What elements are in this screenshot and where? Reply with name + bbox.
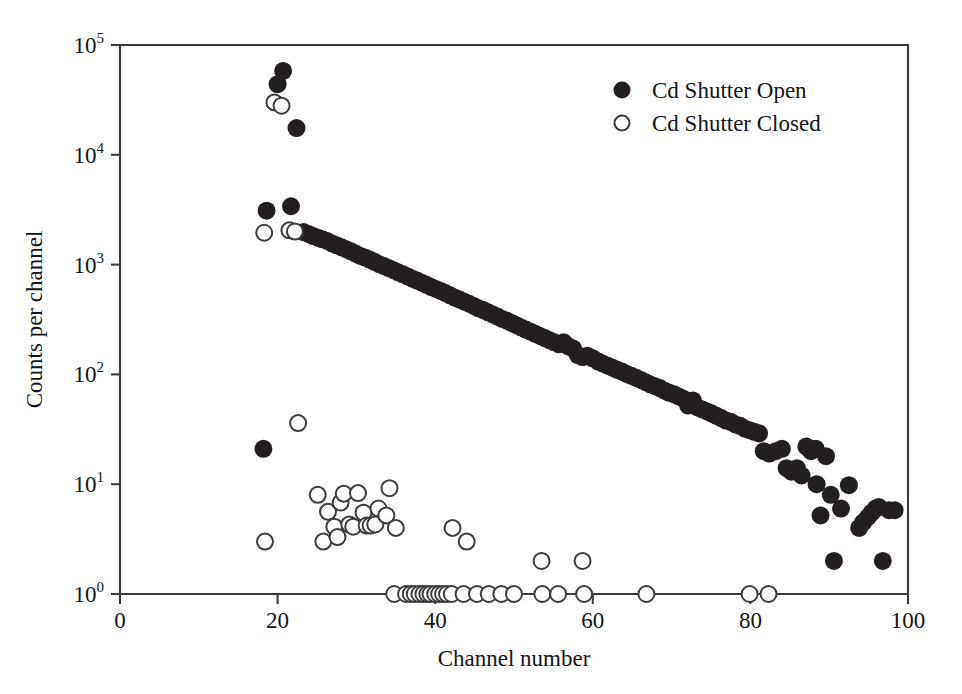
svg-text:104: 104 [74,140,105,168]
data-point [534,586,550,602]
legend-label: Cd Shutter Open [652,78,807,103]
svg-text:103: 103 [74,250,105,278]
x-tick-label-3: 60 [581,608,604,633]
data-point [812,506,830,524]
data-point [638,586,654,602]
data-point [258,202,276,220]
svg-text:100: 100 [74,579,105,607]
y-tick-label-0: 100 [74,579,105,607]
series-shutter-closed [256,94,776,602]
legend-entry-shutter-open: Cd Shutter Open [614,78,808,103]
figure-container: 100101102103104105020406080100Channel nu… [0,0,962,694]
data-point [761,586,777,602]
data-point [750,424,768,442]
data-point [773,440,791,458]
data-point [445,520,461,536]
data-point [288,119,306,137]
data-point [550,586,566,602]
svg-text:101: 101 [74,469,105,497]
x-tick-label-5: 100 [891,608,926,633]
open-circle-icon [615,116,630,131]
data-point [257,534,273,550]
data-point [817,447,835,465]
legend-entry-shutter-closed: Cd Shutter Closed [615,111,822,136]
data-point [459,534,475,550]
x-tick-label-1: 20 [266,608,289,633]
y-tick-label-2: 102 [74,359,105,387]
data-point [886,501,904,519]
data-point [329,529,345,545]
data-point [274,98,290,114]
data-point [256,225,272,241]
x-tick-label-4: 80 [739,608,762,633]
data-point [282,197,300,215]
data-point [506,586,522,602]
data-point [287,224,303,240]
data-point [575,553,591,569]
plot-legend: Cd Shutter OpenCd Shutter Closed [614,78,822,136]
y-axis-title: Counts per channel [22,231,47,409]
x-tick-label-2: 40 [424,608,447,633]
data-point [832,500,850,518]
data-point [381,480,397,496]
data-point [274,62,292,80]
svg-text:102: 102 [74,359,105,387]
filled-circle-icon [614,82,631,99]
legend-label: Cd Shutter Closed [652,111,821,136]
x-axis-title: Channel number [438,646,591,671]
data-point [874,552,892,570]
y-tick-label-4: 104 [74,140,105,168]
data-point [840,476,858,494]
data-point [254,440,272,458]
y-tick-label-5: 105 [74,30,105,58]
data-point [576,586,592,602]
data-point [742,586,758,602]
data-point [350,485,366,501]
data-points-layer [254,62,903,602]
y-tick-label-1: 101 [74,469,105,497]
scatter-plot: 100101102103104105020406080100Channel nu… [0,0,962,694]
data-point [534,553,550,569]
svg-text:105: 105 [74,30,105,58]
data-point [825,552,843,570]
data-point [310,487,326,503]
y-tick-label-3: 103 [74,250,105,278]
data-point [290,415,306,431]
x-tick-label-0: 0 [114,608,126,633]
data-point [388,520,404,536]
